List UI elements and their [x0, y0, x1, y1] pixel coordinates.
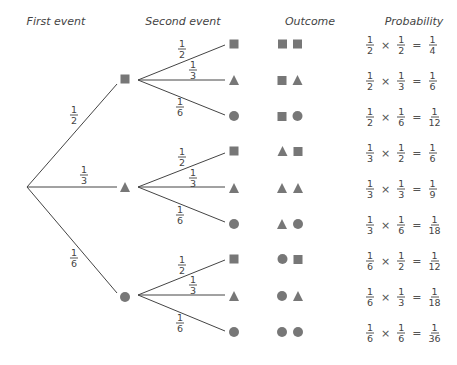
triangle-icon	[293, 291, 303, 301]
square-icon	[293, 40, 302, 49]
circle-icon	[229, 111, 239, 121]
triangle-icon	[277, 219, 287, 229]
probability-expression: 13 × 16 = 118	[366, 215, 441, 236]
outcome-pair	[277, 219, 303, 229]
header-second-event: Second event	[145, 15, 220, 28]
circle-icon	[293, 219, 303, 229]
header-first-event: First event	[27, 15, 86, 28]
second-branch-prob: 12	[178, 255, 186, 276]
circle-icon	[293, 111, 303, 121]
outcome-pair	[277, 291, 303, 301]
second-branch-prob: 12	[178, 39, 186, 60]
probability-expression: 13 × 13 = 19	[366, 179, 437, 200]
probability-expression: 16 × 13 = 118	[366, 287, 441, 308]
probability-expression: 12 × 12 = 14	[366, 35, 437, 56]
square-icon	[230, 255, 239, 264]
square-icon	[278, 76, 287, 85]
triangle-icon	[277, 183, 287, 193]
circle-icon	[293, 327, 303, 337]
second-branch-prob: 16	[176, 97, 184, 118]
probability-expression: 12 × 13 = 16	[366, 71, 437, 92]
outcome-pair	[278, 111, 303, 121]
first-branch-prob-square: 12	[70, 105, 78, 126]
triangle-icon	[229, 183, 239, 193]
header-probability: Probability	[385, 15, 444, 28]
circle-icon	[277, 291, 287, 301]
probability-expression: 13 × 12 = 16	[366, 143, 437, 164]
outcome-pair	[278, 40, 302, 49]
circle-icon	[229, 327, 239, 337]
triangle-icon	[293, 75, 303, 85]
square-icon	[230, 147, 239, 156]
square-icon	[294, 255, 303, 264]
outcome-pair	[278, 254, 303, 264]
second-branch-prob: 13	[189, 168, 197, 189]
second-branch-prob: 12	[178, 147, 186, 168]
triangle-icon	[120, 182, 130, 192]
outcome-pair	[278, 146, 303, 156]
circle-icon	[229, 219, 239, 229]
square-icon	[121, 75, 130, 84]
outcome-pair	[277, 183, 303, 193]
second-branch-prob: 16	[176, 313, 184, 334]
square-icon	[294, 147, 303, 156]
circle-icon	[277, 327, 287, 337]
triangle-icon	[278, 146, 288, 156]
circle-icon	[278, 254, 288, 264]
second-branch-prob: 13	[189, 275, 197, 296]
triangle-icon	[229, 291, 239, 301]
circle-icon	[120, 292, 130, 302]
second-branch-prob: 13	[189, 60, 197, 81]
second-branch-prob: 16	[176, 205, 184, 226]
first-branch-prob-triangle: 13	[80, 165, 88, 186]
probability-expression: 12 × 16 = 112	[366, 107, 441, 128]
outcome-pair	[277, 327, 303, 337]
outcome-pair	[278, 75, 303, 85]
square-icon	[278, 40, 287, 49]
triangle-icon	[293, 183, 303, 193]
header-outcome: Outcome	[285, 15, 335, 28]
probability-expression: 16 × 12 = 112	[366, 251, 441, 272]
square-icon	[278, 112, 287, 121]
probability-expression: 16 × 16 = 136	[366, 323, 441, 344]
square-icon	[230, 40, 239, 49]
triangle-icon	[229, 75, 239, 85]
first-branch-prob-circle: 16	[70, 248, 78, 269]
